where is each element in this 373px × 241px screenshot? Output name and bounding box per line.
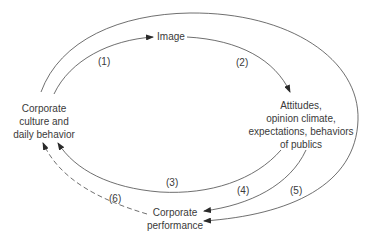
edge-label-5: (5) — [290, 185, 302, 197]
node-publics: Attitudes, opinion climate, expectations… — [240, 99, 362, 151]
node-corporate-performance: Corporate performance — [142, 206, 208, 232]
arrow-4-publics-to-performance — [204, 150, 306, 211]
edge-label-4: (4) — [237, 185, 249, 197]
publics-line-3: expectations, behaviors — [240, 125, 362, 138]
performance-line-1: Corporate — [142, 206, 208, 219]
culture-line-3: daily behavior — [3, 128, 85, 141]
performance-line-2: performance — [142, 219, 208, 232]
arrow-6-performance-to-culture-dashed — [43, 143, 147, 214]
node-image-label: Image — [156, 30, 186, 43]
node-image: Image — [156, 30, 186, 43]
edge-label-3: (3) — [166, 177, 178, 189]
culture-line-1: Corporate — [3, 102, 85, 115]
edge-label-1: (1) — [98, 56, 110, 68]
publics-line-2: opinion climate, — [240, 112, 362, 125]
node-corporate-culture: Corporate culture and daily behavior — [3, 102, 85, 141]
edge-label-2: (2) — [236, 57, 248, 69]
edge-label-6: (6) — [109, 193, 121, 205]
publics-line-1: Attitudes, — [240, 99, 362, 112]
culture-line-2: culture and — [3, 115, 85, 128]
publics-line-4: of publics — [240, 138, 362, 151]
